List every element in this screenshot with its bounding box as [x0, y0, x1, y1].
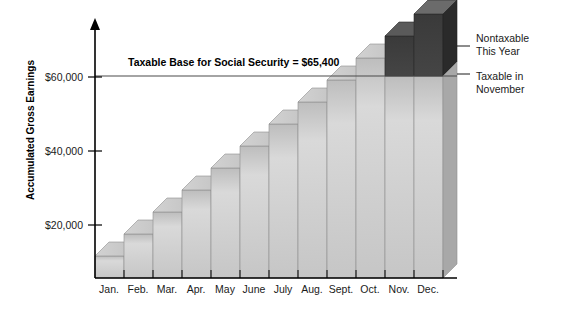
x-label-mar: Mar. [157, 283, 177, 295]
x-label-feb: Feb. [127, 283, 148, 295]
x-label-sept: Sept. [329, 283, 354, 295]
x-label-july: July [274, 283, 293, 295]
x-label-june: June [243, 283, 266, 295]
legend-label-nontaxable-line1: Nontaxable [476, 32, 529, 44]
x-label-jan: Jan. [99, 283, 119, 295]
dec-light-side-face [443, 62, 457, 278]
chart-svg: Taxable Base for Social Security = $65,4… [0, 0, 562, 310]
y-tick-label-60000: $60,000 [45, 71, 83, 83]
x-label-nov: Nov. [389, 283, 410, 295]
legend-label-nontaxable-line2: This Year [476, 45, 520, 57]
y-tick-label-20000: $20,000 [45, 219, 83, 231]
y-axis-title: Accumulated Gross Earnings [25, 60, 36, 200]
legend-label-taxable-line1: Taxable in [476, 70, 523, 82]
y-axis-arrow-icon [90, 18, 100, 30]
chart-container: Taxable Base for Social Security = $65,4… [0, 0, 562, 310]
nontaxable-segment-dec [414, 14, 443, 76]
threshold-label: Taxable Base for Social Security = $65,4… [128, 56, 340, 68]
x-label-dec: Dec. [417, 283, 439, 295]
x-label-apr: Apr. [187, 283, 206, 295]
bars-group [95, 0, 457, 278]
legend-label-taxable-line2: November [476, 83, 525, 95]
legend-group: Nontaxable This Year Taxable in November [457, 32, 529, 95]
y-tick-label-40000: $40,000 [45, 145, 83, 157]
x-label-aug: Aug. [301, 283, 323, 295]
nontaxable-segment-nov [385, 36, 414, 76]
x-label-may: May [215, 283, 236, 295]
x-label-oct: Oct. [360, 283, 379, 295]
